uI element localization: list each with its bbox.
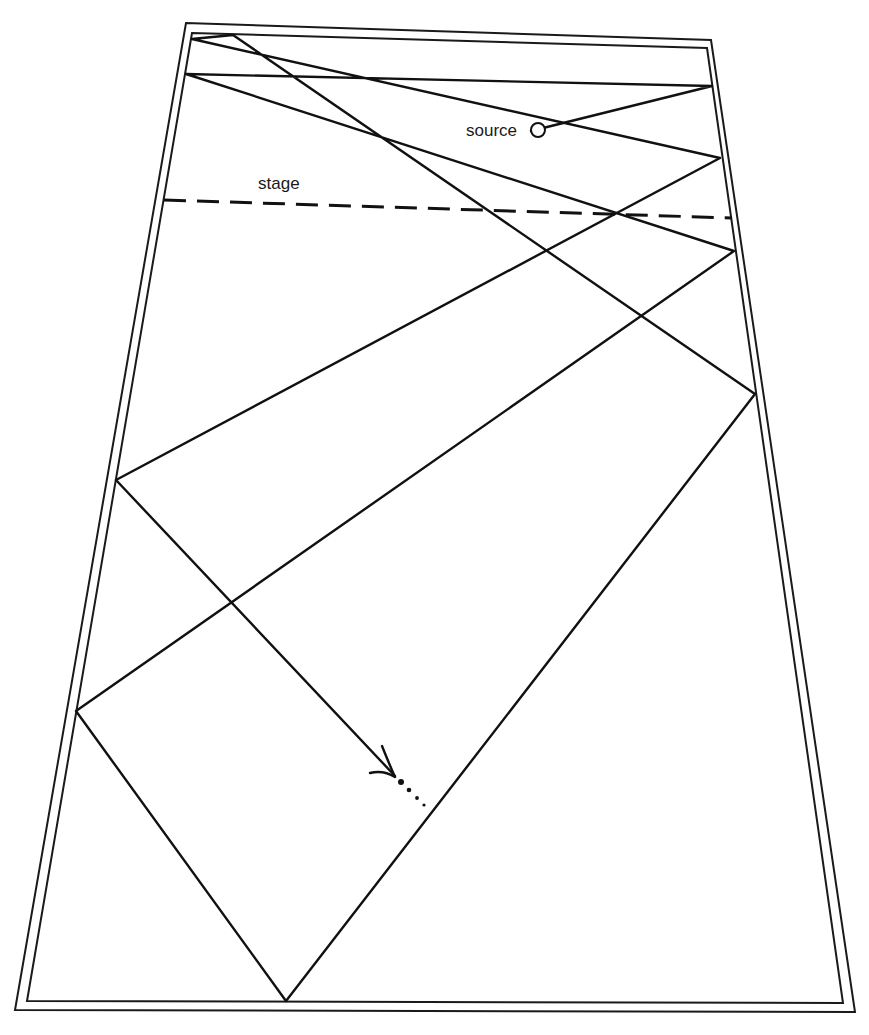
hall-ray-diagram: source stage (0, 0, 869, 1035)
outer-wall (15, 23, 855, 1012)
sound-ray-path (76, 35, 755, 1001)
source-marker-icon (531, 123, 545, 137)
stage-edge-dashed-line (164, 200, 732, 218)
stage-label: stage (258, 174, 300, 193)
inner-wall (27, 33, 843, 1003)
ray-continuation-dots (398, 779, 426, 807)
source-label: source (466, 121, 517, 140)
